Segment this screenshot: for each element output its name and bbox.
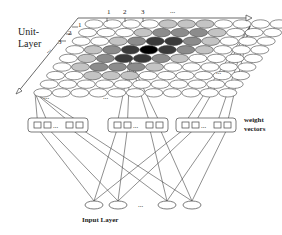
- grid-cell: [239, 37, 257, 45]
- weight-vector-ellipsis: ...: [133, 122, 139, 130]
- grid-cell: [214, 46, 232, 54]
- grid-cell: [84, 71, 102, 79]
- grid-cell: [164, 63, 182, 71]
- weight-to-input-line: [118, 128, 128, 201]
- input-node: [183, 201, 201, 209]
- grid-cell: [190, 28, 208, 36]
- grid-cell: [77, 80, 95, 88]
- grid-cell: [215, 20, 233, 28]
- grid-cell: [165, 37, 183, 45]
- grid-cell: [65, 71, 83, 79]
- weight-component-box: [182, 122, 189, 128]
- weight-vectors-label-line1: weight: [244, 116, 265, 124]
- side-axis-arrowhead: [16, 88, 22, 94]
- unit-layer-label-line1: Unit-: [18, 26, 39, 37]
- grid-cell: [270, 20, 282, 28]
- grid-cell: [145, 89, 163, 97]
- grid-cell: [126, 89, 144, 97]
- grid-cell: [47, 71, 65, 79]
- grid-cell: [108, 89, 126, 97]
- input-layer-label: Input Layer: [82, 216, 118, 224]
- weight-to-input-line: [38, 128, 95, 201]
- weight-component-box: [224, 122, 231, 128]
- grid-cell: [244, 54, 262, 62]
- weight-component-box: [76, 122, 83, 128]
- grid-cell: [84, 46, 102, 54]
- grid-cell: [102, 71, 120, 79]
- grid-cell: [127, 63, 145, 71]
- input-node: [109, 201, 127, 209]
- grid-cell: [139, 71, 157, 79]
- grid-cell: [183, 63, 201, 71]
- grid-cell: [128, 37, 146, 45]
- weight-component-box: [34, 122, 41, 128]
- grid-cell: [220, 63, 238, 71]
- weight-component-box: [156, 122, 163, 128]
- weight-vector-ellipsis: ...: [201, 122, 207, 130]
- weight-component-box: [146, 122, 153, 128]
- input-node: [85, 201, 103, 209]
- top-tick-label-2: 2: [123, 8, 127, 16]
- side-tick-label-2: 2: [68, 29, 72, 37]
- unit-layer-label-line2: Layer: [18, 38, 42, 49]
- grid-cell: [121, 46, 139, 54]
- grid-cell: [188, 80, 206, 88]
- grid-cell: [115, 54, 133, 62]
- side-tick-label-3: 3: [58, 38, 62, 46]
- side-tick-label-ellipsis: ...: [43, 45, 53, 55]
- grid-cell: [178, 20, 196, 28]
- weight-vector-groups: .........: [28, 118, 236, 132]
- top-axis-arrowhead: [246, 15, 252, 21]
- grid-cell: [200, 89, 218, 97]
- weight-vector-ellipsis: ...: [53, 122, 59, 130]
- top-tick-label-3: 3: [141, 8, 145, 16]
- weight-to-input-line: [94, 128, 118, 201]
- grid-cell: [133, 80, 151, 88]
- grid-cell: [96, 80, 114, 88]
- input-layer-ellipsis: ...: [138, 201, 144, 209]
- grid-cell: [189, 54, 207, 62]
- grid-cell: [170, 54, 188, 62]
- grid-cell: [225, 80, 243, 88]
- grid-cell: [109, 37, 127, 45]
- top-tick-label-1: 1: [107, 8, 111, 16]
- grid-cell: [116, 28, 134, 36]
- grid-cell: [40, 80, 58, 88]
- grid-cell: [152, 54, 170, 62]
- grid-cell: [182, 89, 200, 97]
- grid-ellipsis-left: ...: [44, 93, 50, 101]
- weight-to-input-line: [118, 128, 196, 201]
- grid-cell: [264, 28, 282, 36]
- weight-vectors-label-line2: vectors: [244, 125, 266, 133]
- grid-cell: [232, 46, 250, 54]
- top-tick-label-ellipsis: ...: [170, 7, 176, 15]
- grid-cell: [96, 54, 114, 62]
- grid-cell: [232, 71, 250, 79]
- weight-component-box: [66, 122, 73, 128]
- grid-cell: [71, 89, 89, 97]
- grid-cell: [159, 20, 177, 28]
- grid-cell: [163, 89, 181, 97]
- grid-cell: [195, 46, 213, 54]
- grid-cell: [146, 63, 164, 71]
- input-node: [158, 201, 176, 209]
- grid-cell: [227, 28, 245, 36]
- grid-cell: [78, 54, 96, 62]
- grid-cell: [133, 54, 151, 62]
- grid-cell: [196, 20, 214, 28]
- grid-cell: [219, 89, 237, 97]
- grid-cell: [195, 71, 213, 79]
- grid-cell: [72, 37, 90, 45]
- grid-cell: [97, 28, 115, 36]
- grid-ellipsis-bottom: ...: [103, 93, 109, 101]
- weight-to-input-line: [80, 128, 193, 201]
- grid-ellipsis-right: ...: [216, 68, 222, 76]
- grid-cell: [183, 37, 201, 45]
- grid-cell: [66, 46, 84, 54]
- grid-cell: [176, 71, 194, 79]
- grid-cell: [245, 28, 263, 36]
- weight-component-box: [124, 122, 131, 128]
- grid-cell: [85, 20, 103, 28]
- grid-cell: [171, 28, 189, 36]
- grid-cell: [109, 63, 127, 71]
